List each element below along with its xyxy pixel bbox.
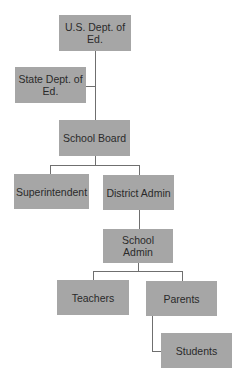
node-us-dept-of-ed: U.S. Dept. of Ed. [59,15,131,51]
node-school-admin: School Admin [103,229,173,263]
node-label: District Admin [106,187,170,199]
node-teachers: Teachers [57,280,129,315]
connector-state-dept [86,86,95,87]
connector-to-students [152,351,161,352]
node-state-dept-of-ed: State Dept. of Ed. [15,67,86,103]
node-label: Parents [163,293,199,305]
connector-schoolboard-down [95,156,96,165]
connector-parents-down [152,316,153,351]
node-district-admin: District Admin [103,175,174,210]
node-label: School Board [63,132,126,144]
node-students: Students [161,333,232,368]
connector-usdept-to-schoolboard [95,51,96,120]
connector-schooladmin-branch [93,271,183,272]
node-label: Superintendent [16,186,87,198]
node-parents: Parents [146,281,217,316]
node-label: Teachers [72,292,115,304]
node-label: State Dept. of Ed. [18,73,83,97]
connector-to-parents [182,271,183,281]
connector-to-teachers [93,271,94,280]
connector-to-superintendent [50,165,51,174]
node-label: U.S. Dept. of Ed. [62,21,128,45]
node-school-board: School Board [59,120,130,156]
node-superintendent: Superintendent [14,174,89,209]
connector-to-district-admin [139,165,140,175]
connector-schoolboard-branch [50,165,140,166]
connector-schooladmin-down [138,263,139,271]
node-label: Students [176,345,217,357]
connector-district-to-school-admin [139,210,140,229]
node-label: School Admin [106,234,170,258]
